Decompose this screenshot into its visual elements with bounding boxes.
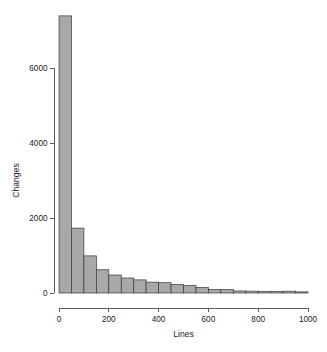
x-axis-tick-label: 0 [57, 315, 62, 324]
y-axis-title: Changes [11, 163, 21, 197]
histogram-bar [96, 270, 108, 293]
histogram-bar [233, 291, 245, 293]
histogram-bar [271, 291, 283, 293]
histogram-bar [246, 291, 258, 293]
histogram-bar [146, 282, 158, 293]
histogram-bar [221, 290, 233, 293]
histogram-bar [258, 291, 270, 293]
histogram-bar [283, 291, 295, 293]
histogram-bar [296, 292, 308, 293]
histogram-bar [184, 286, 196, 294]
histogram-plot: 0200040006000Changes02004006008001000Lin… [0, 0, 327, 352]
histogram-bar [134, 280, 146, 293]
histogram-figure: 0200040006000Changes02004006008001000Lin… [0, 0, 327, 352]
histogram-bar [159, 283, 171, 293]
histogram-bar [196, 287, 208, 293]
histogram-bar [208, 289, 220, 293]
x-axis-tick-label: 1000 [299, 315, 318, 324]
histogram-bar [84, 256, 96, 293]
histogram-bar [71, 228, 83, 293]
histogram-bar [59, 16, 71, 293]
x-axis-tick-label: 800 [251, 315, 265, 324]
x-axis-tick-label: 600 [202, 315, 216, 324]
histogram-bar [171, 285, 183, 293]
y-axis-tick-label: 4000 [29, 139, 48, 148]
y-axis-tick-label: 2000 [29, 214, 48, 223]
x-axis-tick-label: 400 [152, 315, 166, 324]
y-axis-tick-label: 0 [43, 289, 48, 298]
x-axis-title: Lines [173, 329, 194, 339]
y-axis-tick-label: 6000 [29, 64, 48, 73]
x-axis-tick-label: 200 [102, 315, 116, 324]
histogram-bar [109, 275, 121, 293]
histogram-bar [121, 278, 133, 293]
